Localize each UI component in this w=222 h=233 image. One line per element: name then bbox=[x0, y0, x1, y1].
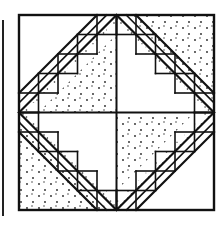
corner-patch-top-right bbox=[124, 15, 214, 105]
quilt-block-drawing bbox=[0, 0, 222, 233]
quilt-figure: Quilt block line drawing bbox=[0, 0, 222, 233]
corner-patch-bottom-left bbox=[19, 120, 109, 210]
left-edge-bar bbox=[2, 20, 4, 216]
